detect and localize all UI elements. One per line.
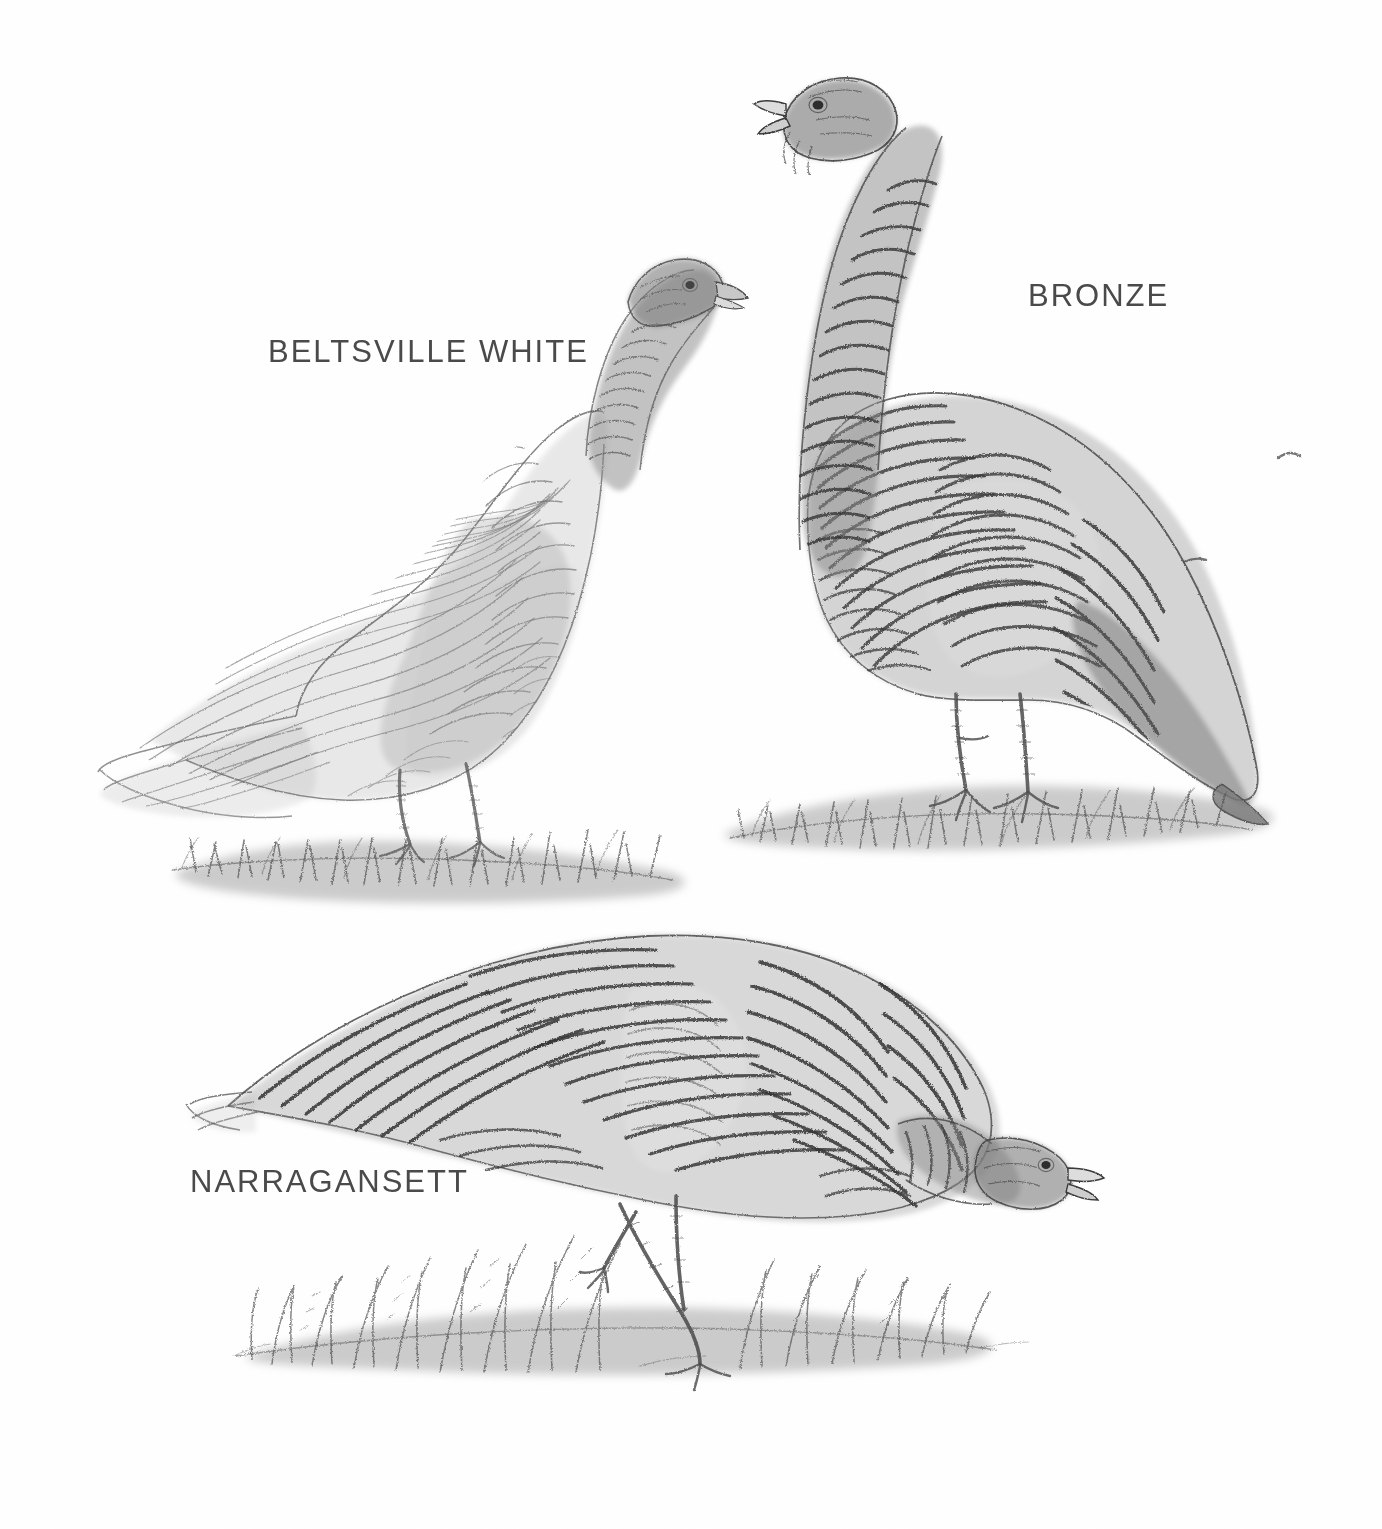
bronze-turkey	[730, 78, 1268, 848]
bronze-neck	[798, 125, 942, 577]
beltsville-white-plumage-barring	[140, 447, 576, 806]
bronze-grass	[730, 788, 1252, 848]
bronze-plumage-barring	[818, 406, 1246, 840]
ground-shadow-washes	[176, 786, 1273, 1375]
narragansett-neck	[897, 1115, 1020, 1204]
beltsville-white-body-outline	[186, 411, 604, 800]
narragansett-legs	[604, 1196, 700, 1364]
beltsville-white-head	[628, 259, 748, 327]
label-bronze: BRONZE	[1028, 278, 1169, 314]
bronze-head	[754, 78, 897, 176]
narragansett-turkey	[186, 934, 1104, 1390]
bronze-body-outline	[808, 393, 1258, 800]
bronze-tail	[1213, 784, 1268, 824]
beltsville-white-legs	[399, 764, 480, 844]
illustration-plate: BELTSVILLE WHITE BRONZE NARRAGANSETT	[0, 0, 1382, 1529]
narragansett-grass	[234, 1236, 1028, 1372]
beltsville-white-tail	[98, 716, 330, 818]
label-narragansett: NARRAGANSETT	[190, 1164, 469, 1200]
label-beltsville-white: BELTSVILLE WHITE	[268, 334, 589, 370]
beltsville-white-grass	[172, 830, 672, 886]
bronze-legs	[956, 694, 1028, 792]
narragansett-head	[974, 1138, 1104, 1210]
stray-pencil-marks	[1184, 453, 1300, 562]
turkey-illustration-artwork	[0, 0, 1382, 1529]
narragansett-tail	[186, 1092, 258, 1130]
beltsville-white-neck	[586, 270, 722, 491]
